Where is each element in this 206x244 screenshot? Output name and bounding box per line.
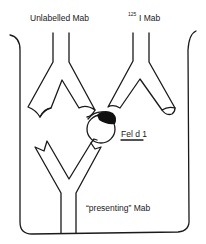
label-unlabelled-mab: Unlabelled Mab xyxy=(30,13,89,23)
label-presenting-mab: “presenting” Mab xyxy=(86,203,151,213)
label-fel-d-1: Fel d 1 xyxy=(121,129,147,139)
iodinated-mab xyxy=(108,33,175,115)
label-iodine-mass: 125 xyxy=(128,11,137,17)
fel-d-1-antigen xyxy=(87,111,116,143)
label-iodine-mab: I Mab xyxy=(139,13,161,23)
unlabelled-mab xyxy=(28,33,95,117)
immunoassay-diagram: Unlabelled Mab 125 I Mab Fel d 1 “presen… xyxy=(0,0,206,244)
presenting-mab xyxy=(35,139,101,233)
epitope-binding-cap xyxy=(97,111,116,124)
